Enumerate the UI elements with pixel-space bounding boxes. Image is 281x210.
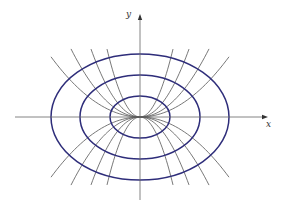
y-axis-arrow-icon — [138, 14, 142, 20]
ellipse-trajectory-diagram — [0, 0, 281, 210]
coordinate-axes — [15, 14, 268, 200]
x-axis-label: x — [266, 119, 271, 129]
y-axis-label: y — [126, 9, 131, 19]
